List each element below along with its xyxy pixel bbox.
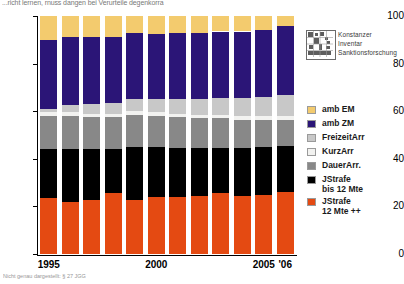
bar-segment <box>148 112 165 116</box>
bar-segment <box>40 198 57 254</box>
bar-segment <box>191 99 208 114</box>
bar-segment <box>62 116 79 149</box>
legend-swatch-kurz <box>307 148 316 156</box>
bar-segment <box>148 99 165 112</box>
logo-line-3: Sanktionsforschung <box>338 48 402 57</box>
bar-segment <box>105 16 122 37</box>
bar-segment <box>277 16 294 26</box>
bar-segment <box>212 115 229 119</box>
bar-segment <box>255 195 272 255</box>
legend-swatch-jstrafe12 <box>307 176 316 184</box>
bar-1999[interactable] <box>126 16 143 254</box>
bar-segment <box>40 16 57 40</box>
bar-segment <box>191 33 208 100</box>
legend-swatch-freizeit <box>307 134 316 142</box>
chart-footnote: Nicht genau dargestellt: § 27 JGG <box>3 272 223 281</box>
x-tick-label-06: '06 <box>271 259 299 270</box>
bar-segment <box>277 120 294 146</box>
legend-item-freizeit[interactable]: FreizeitArr <box>307 131 403 145</box>
legend-label-ambem: amb EM <box>322 103 355 116</box>
bar-1995[interactable] <box>40 16 57 254</box>
bar-segment <box>105 37 122 102</box>
bar-segment <box>191 16 208 33</box>
bar-segment <box>169 148 186 197</box>
legend-item-jstrafe12[interactable]: JStrafebis 12 Mte <box>307 173 403 195</box>
bar-segment <box>255 147 272 195</box>
bar-1998[interactable] <box>105 16 122 254</box>
bar-segment <box>83 104 100 114</box>
y-tick-mark-60 <box>33 111 37 112</box>
y-tick-label-80: 80 <box>374 59 404 69</box>
x-tick-label-2000: 2000 <box>142 259 170 270</box>
bar-1997[interactable] <box>83 16 100 254</box>
bar-segment <box>83 37 100 104</box>
bar-segment <box>148 197 165 254</box>
bar-segment <box>40 116 57 149</box>
legend-item-dauer[interactable]: DauerArr. <box>307 159 403 173</box>
bar-segment <box>148 34 165 99</box>
bar-segment <box>62 16 79 37</box>
bar-segment <box>277 26 294 95</box>
bar-segment <box>277 192 294 254</box>
bar-segment <box>255 116 272 120</box>
y-tick-mark-20 <box>33 206 37 207</box>
legend-item-jstrafe12pp[interactable]: JStrafe12 Mte ++ <box>307 195 403 217</box>
bar-segment <box>83 16 100 37</box>
logo-line-1: Konstanzer <box>338 30 402 39</box>
bar-segment <box>169 114 186 118</box>
bar-segment <box>83 200 100 254</box>
bar-segment <box>212 16 229 31</box>
bar-segment <box>105 193 122 254</box>
bar-2001[interactable] <box>169 16 186 254</box>
bar-06[interactable] <box>277 16 294 254</box>
legend-swatch-dauer <box>307 162 316 170</box>
bar-2004[interactable] <box>234 16 251 254</box>
legend-item-kurz[interactable]: KurzArr <box>307 145 403 159</box>
bar-segment <box>126 111 143 115</box>
bar-segment <box>255 97 272 116</box>
bar-2005[interactable] <box>255 16 272 254</box>
bar-segment <box>234 148 251 196</box>
bar-segment <box>277 95 294 116</box>
bar-segment <box>62 37 79 105</box>
legend-label-ambzm: amb ZM <box>322 117 354 130</box>
bar-segment <box>105 117 122 149</box>
bar-segment <box>148 16 165 34</box>
bar-segment <box>148 116 165 147</box>
bar-segment <box>255 16 272 30</box>
bar-segment <box>191 196 208 254</box>
bar-segment <box>169 33 186 100</box>
bar-segment <box>234 98 251 116</box>
bar-segment <box>234 116 251 120</box>
stacked-bar-plot-area <box>38 16 296 254</box>
bar-2000[interactable] <box>148 16 165 254</box>
legend-swatch-ambzm <box>307 120 316 128</box>
bar-segment <box>105 114 122 118</box>
y-tick-mark-0 <box>33 254 37 255</box>
y-tick-mark-80 <box>33 64 37 65</box>
bar-segment <box>83 149 100 200</box>
bar-segment <box>62 105 79 112</box>
legend-label-dauer: DauerArr. <box>322 159 361 172</box>
bar-segment <box>277 116 294 120</box>
legend-item-ambzm[interactable]: amb ZM <box>307 117 403 131</box>
legend-swatch-jstrafe12pp <box>307 198 316 206</box>
bar-1996[interactable] <box>62 16 79 254</box>
bar-segment <box>40 109 57 113</box>
bar-segment <box>234 16 251 31</box>
bar-segment <box>62 149 79 201</box>
legend-item-ambem[interactable]: amb EM <box>307 103 403 117</box>
bar-segment <box>148 147 165 197</box>
legend-label-kurz: KurzArr <box>322 145 354 158</box>
bar-segment <box>277 146 294 192</box>
y-tick-mark-100 <box>33 16 37 17</box>
chart-screenshot: ...richt lernen, rnuss dangen bei Verurt… <box>0 0 404 284</box>
bar-segment <box>212 118 229 148</box>
bar-segment <box>126 147 143 201</box>
bar-segment <box>126 200 143 254</box>
bar-segment <box>169 99 186 113</box>
bar-2002[interactable] <box>191 16 208 254</box>
bar-segment <box>212 148 229 193</box>
bar-segment <box>83 117 100 149</box>
bar-2003[interactable] <box>212 16 229 254</box>
